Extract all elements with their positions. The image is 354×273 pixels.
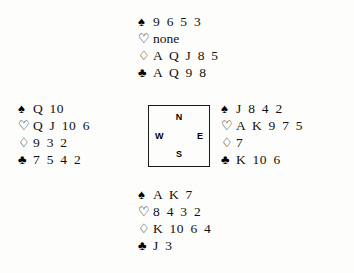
club-icon: ♣: [18, 151, 33, 168]
hand-west: ♠ Q 10 ♡ Q J 10 6 ♢ 9 3 2 ♣ 7 5 4 2: [18, 100, 90, 168]
spade-icon: ♠: [18, 100, 33, 117]
hand-west-hearts: Q J 10 6: [33, 117, 90, 134]
heart-icon: ♡: [18, 117, 33, 134]
hand-east-clubs: K 10 6: [236, 151, 281, 168]
hand-north: ♠ 9 6 5 3 ♡ none ♢ A Q J 8 5 ♣ A Q 9 8: [138, 13, 219, 81]
club-icon: ♣: [221, 151, 236, 168]
hand-east-hearts-row: ♡ A K 9 7 5: [221, 117, 303, 134]
hand-west-diamonds: 9 3 2: [33, 134, 68, 151]
hand-south-clubs: J 3: [153, 237, 172, 254]
hand-east-diamonds: 7: [236, 134, 243, 151]
spade-icon: ♠: [138, 13, 153, 30]
compass-west-label: W: [155, 132, 164, 141]
hand-north-hearts-row: ♡ none: [138, 30, 219, 47]
hand-east-clubs-row: ♣ K 10 6: [221, 151, 303, 168]
hand-west-clubs: 7 5 4 2: [33, 151, 81, 168]
hand-south-hearts-row: ♡ 8 4 3 2: [138, 203, 211, 220]
hand-east-spades-row: ♠ J 8 4 2: [221, 100, 303, 117]
spade-icon: ♠: [221, 100, 236, 117]
heart-icon: ♡: [138, 30, 153, 47]
hand-north-clubs: A Q 9 8: [153, 64, 206, 81]
hand-east: ♠ J 8 4 2 ♡ A K 9 7 5 ♢ 7 ♣ K 10 6: [221, 100, 303, 168]
diamond-icon: ♢: [138, 220, 153, 237]
hand-south-hearts: 8 4 3 2: [153, 203, 201, 220]
hand-south-diamonds-row: ♢ K 10 6 4: [138, 220, 211, 237]
hand-east-hearts: A K 9 7 5: [236, 117, 303, 134]
hand-north-spades-row: ♠ 9 6 5 3: [138, 13, 219, 30]
hand-south-spades-row: ♠ A K 7: [138, 186, 211, 203]
diamond-icon: ♢: [221, 134, 236, 151]
compass-box: N W E S: [148, 105, 210, 167]
diamond-icon: ♢: [138, 47, 153, 64]
hand-west-clubs-row: ♣ 7 5 4 2: [18, 151, 90, 168]
heart-icon: ♡: [138, 203, 153, 220]
compass-east-label: E: [197, 132, 203, 141]
compass-north-label: N: [176, 113, 183, 122]
hand-north-clubs-row: ♣ A Q 9 8: [138, 64, 219, 81]
hand-south: ♠ A K 7 ♡ 8 4 3 2 ♢ K 10 6 4 ♣ J 3: [138, 186, 211, 254]
hand-west-diamonds-row: ♢ 9 3 2: [18, 134, 90, 151]
compass-south-label: S: [176, 150, 182, 159]
hand-east-diamonds-row: ♢ 7: [221, 134, 303, 151]
hand-south-clubs-row: ♣ J 3: [138, 237, 211, 254]
hand-north-diamonds-row: ♢ A Q J 8 5: [138, 47, 219, 64]
hand-north-hearts: none: [153, 30, 179, 47]
hand-west-spades-row: ♠ Q 10: [18, 100, 90, 117]
hand-south-spades: A K 7: [153, 186, 193, 203]
hand-north-diamonds: A Q J 8 5: [153, 47, 219, 64]
heart-icon: ♡: [221, 117, 236, 134]
club-icon: ♣: [138, 237, 153, 254]
hand-east-spades: J 8 4 2: [236, 100, 283, 117]
hand-west-hearts-row: ♡ Q J 10 6: [18, 117, 90, 134]
spade-icon: ♠: [138, 186, 153, 203]
hand-south-diamonds: K 10 6 4: [153, 220, 211, 237]
hand-north-spades: 9 6 5 3: [153, 13, 201, 30]
bridge-deal-diagram: ♠ 9 6 5 3 ♡ none ♢ A Q J 8 5 ♣ A Q 9 8 ♠…: [0, 0, 354, 273]
club-icon: ♣: [138, 64, 153, 81]
diamond-icon: ♢: [18, 134, 33, 151]
hand-west-spades: Q 10: [33, 100, 64, 117]
